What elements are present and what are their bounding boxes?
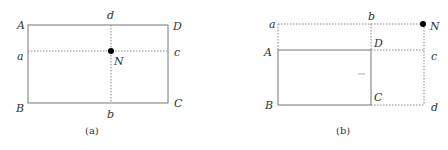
label-N: N xyxy=(113,55,124,68)
caption-b: (b) xyxy=(336,125,350,136)
diagram-canvas: A d D a c N B b C (a) a b N D A c B C d … xyxy=(0,0,448,150)
label-b: b xyxy=(107,108,114,121)
label-C: C xyxy=(174,97,183,110)
label-d: d xyxy=(107,9,114,22)
point-n xyxy=(420,21,426,27)
label-a: a xyxy=(17,50,24,63)
rectangle-abcd xyxy=(28,25,168,103)
label-D: D xyxy=(172,20,182,33)
point-n xyxy=(108,48,114,54)
label-b: b xyxy=(368,10,375,23)
figure-b: a b N D A c B C d (b) xyxy=(263,10,440,136)
label-B: B xyxy=(264,99,273,112)
label-N: N xyxy=(429,20,440,33)
caption-a: (a) xyxy=(85,125,99,136)
label-C: C xyxy=(374,91,383,104)
label-A: A xyxy=(16,19,25,32)
label-a: a xyxy=(269,18,276,31)
figure-a: A d D a c N B b C (a) xyxy=(15,9,183,136)
rectangle-abcd xyxy=(278,50,371,105)
label-c: c xyxy=(174,46,180,59)
label-D: D xyxy=(373,37,383,50)
label-c: c xyxy=(431,50,437,63)
label-A: A xyxy=(263,46,272,59)
label-d: d xyxy=(431,101,438,114)
label-B: B xyxy=(15,102,24,115)
